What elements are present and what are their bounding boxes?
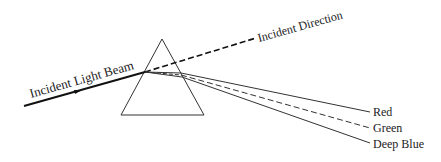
green-label: Green bbox=[373, 121, 402, 135]
red-ray bbox=[181, 73, 370, 112]
deep-blue-ray bbox=[182, 77, 370, 143]
deep-blue-label: Deep Blue bbox=[373, 137, 424, 151]
incident-beam-arrow-icon bbox=[74, 90, 82, 94]
red-label: Red bbox=[373, 105, 392, 119]
green-ray bbox=[181, 75, 370, 128]
incident-direction-line bbox=[145, 38, 256, 72]
incident-direction-label: Incident Direction bbox=[256, 8, 344, 45]
prism-diagram: Incident Light Beam Incident Direction R… bbox=[0, 0, 441, 162]
prism-triangle bbox=[121, 39, 204, 115]
